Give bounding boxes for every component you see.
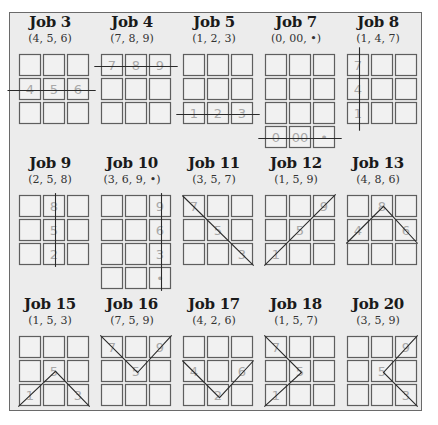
cell-number: 6	[74, 82, 82, 97]
keypad-cell	[126, 79, 147, 100]
cell-number: 9	[156, 340, 164, 355]
cell-number: 00	[292, 130, 309, 145]
keypad-cell	[314, 244, 335, 265]
keypad-cell	[372, 220, 393, 241]
keypad-cell	[20, 55, 41, 76]
job-title: Job 18	[255, 295, 337, 313]
keypad-cell	[372, 244, 393, 265]
keypad-grid: 789	[101, 54, 170, 123]
cell-number: 9	[156, 199, 164, 214]
cell-number: 4	[26, 82, 34, 97]
keypad-cell	[208, 244, 229, 265]
keypad-grid: 486	[347, 195, 416, 264]
keypad-cell	[232, 220, 253, 241]
keypad-cell	[266, 55, 287, 76]
keypad-cell	[150, 361, 171, 382]
cell-number: 4	[354, 82, 362, 97]
keypad-cell	[266, 103, 287, 124]
keypad-cell	[372, 103, 393, 124]
keypad-cell	[396, 55, 417, 76]
cell-number: 5	[50, 364, 58, 379]
job-code: (3, 5, 9)	[337, 314, 419, 327]
cell-number: 1	[190, 106, 198, 121]
job-code: (4, 2, 6)	[173, 314, 255, 327]
keypad-cell	[348, 244, 369, 265]
keypad-cell	[232, 385, 253, 406]
keypad-cell	[266, 79, 287, 100]
keypad-grid: 426	[183, 336, 252, 405]
job-code: (3, 6, 9, •)	[91, 173, 173, 186]
keypad-cell	[102, 361, 123, 382]
cell-number: 3	[238, 106, 246, 121]
cell-number: 8	[132, 58, 140, 73]
job-title: Job 20	[337, 295, 419, 313]
keypad-cell	[290, 385, 311, 406]
keypad-cell	[290, 55, 311, 76]
keypad-cell	[396, 79, 417, 100]
keypad-cell	[266, 196, 287, 217]
keypad-cell	[20, 361, 41, 382]
keypad-cell	[126, 244, 147, 265]
keypad-grid: 123	[183, 54, 252, 123]
cell-number: 2	[50, 247, 58, 262]
cell-number: 1	[354, 106, 362, 121]
keypad-cell	[44, 55, 65, 76]
job-code: (1, 2, 3)	[173, 32, 255, 45]
cell-number: 9	[402, 340, 410, 355]
keypad-cell	[68, 361, 89, 382]
keypad-cell	[396, 196, 417, 217]
keypad-grid: 456	[19, 54, 88, 123]
keypad-cell	[208, 337, 229, 358]
keypad-grid: 751	[265, 336, 334, 405]
keypad-cell	[314, 220, 335, 241]
job-code: (0, 00, •)	[255, 32, 337, 45]
cell-number: 7	[354, 58, 362, 73]
job-title: Job 8	[337, 13, 419, 31]
keypad-cell	[290, 337, 311, 358]
job-title: Job 15	[9, 295, 91, 313]
keypad-cell	[126, 103, 147, 124]
job-code: (4, 8, 6)	[337, 173, 419, 186]
keypad-grid: 153	[19, 336, 88, 405]
keypad-cell	[290, 103, 311, 124]
keypad-cell	[150, 103, 171, 124]
keypad-cell	[44, 337, 65, 358]
keypad-cell	[20, 196, 41, 217]
cell-number: 9	[156, 58, 164, 73]
keypad-cell	[396, 361, 417, 382]
keypad-cell	[150, 385, 171, 406]
job-code: (3, 5, 7)	[173, 173, 255, 186]
job-code: (1, 5, 7)	[255, 314, 337, 327]
keypad-cell	[20, 244, 41, 265]
job-code: (7, 8, 9)	[91, 32, 173, 45]
keypad-grid: 741	[347, 54, 416, 123]
keypad-cell	[150, 79, 171, 100]
cell-number: 7	[190, 199, 198, 214]
job-code: (4, 5, 6)	[9, 32, 91, 45]
job-title: Job 16	[91, 295, 173, 313]
keypad-cell	[290, 196, 311, 217]
keypad-cell	[102, 385, 123, 406]
keypad-cell	[314, 79, 335, 100]
job-title: Job 12	[255, 154, 337, 172]
keypad-cell	[232, 337, 253, 358]
keypad-cell	[290, 244, 311, 265]
cell-number: 4	[190, 364, 198, 379]
keypad-cell	[184, 79, 205, 100]
keypad-cell	[314, 385, 335, 406]
keypad-cell	[396, 103, 417, 124]
keypad-grid: 759	[101, 336, 170, 405]
keypad-cell	[102, 244, 123, 265]
job-code: (1, 5, 9)	[255, 173, 337, 186]
job-title: Job 13	[337, 154, 419, 172]
keypad-cell	[126, 385, 147, 406]
keypad-grid: 963•	[101, 195, 170, 288]
keypad-cell	[266, 361, 287, 382]
keypad-cell	[102, 79, 123, 100]
job-code: (7, 5, 9)	[91, 314, 173, 327]
keypad-cell	[348, 337, 369, 358]
keypad-cell	[68, 103, 89, 124]
keypad-cell	[68, 55, 89, 76]
cell-number: 1	[272, 388, 280, 403]
job-title: Job 9	[9, 154, 91, 172]
